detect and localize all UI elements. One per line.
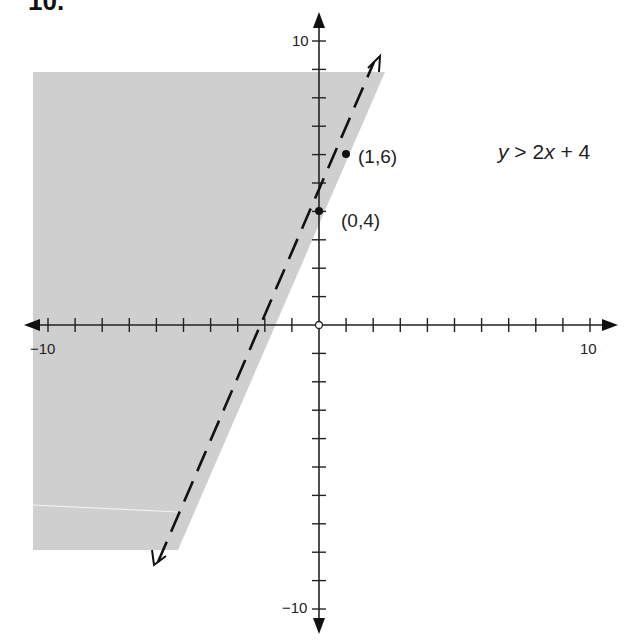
origin-marker — [316, 322, 323, 329]
point-label-0-4: (0,4) — [341, 210, 380, 232]
y-max-label: 10 — [292, 32, 309, 49]
y-axis-up-arrow — [313, 12, 325, 28]
x-axis-left-arrow — [24, 319, 40, 331]
coordinate-plane: −10 10 10 −10 — [0, 0, 643, 640]
inequality-op: > 2 — [509, 140, 545, 163]
point-0-4 — [315, 207, 323, 215]
point-label-1-6: (1,6) — [358, 146, 397, 168]
inequality-var-y: y — [498, 140, 509, 163]
inequality-label: y > 2x + 4 — [498, 140, 590, 164]
y-axis-down-arrow — [313, 618, 325, 634]
y-min-label: −10 — [282, 599, 307, 616]
x-min-label: −10 — [30, 340, 55, 357]
x-axis-right-arrow — [602, 319, 618, 331]
inequality-var-x: x — [544, 140, 555, 163]
x-max-label: 10 — [580, 340, 597, 357]
inequality-rest: + 4 — [555, 140, 591, 163]
shaded-solution-region — [33, 72, 385, 550]
point-1-6 — [342, 150, 350, 158]
